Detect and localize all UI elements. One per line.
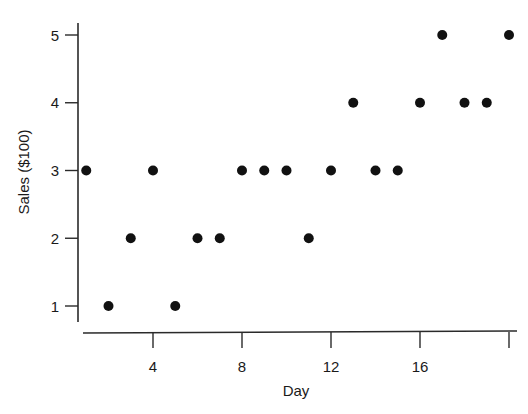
y-tick-label: 2 [51, 230, 59, 247]
data-point [259, 166, 269, 176]
y-tick-label: 4 [51, 94, 59, 111]
y-tick-label: 1 [51, 298, 59, 315]
x-tick-label: 12 [323, 358, 340, 375]
data-point [393, 166, 403, 176]
data-point [371, 166, 381, 176]
x-axis-title: Day [283, 382, 310, 399]
data-point [282, 166, 292, 176]
data-point [460, 98, 470, 108]
y-axis-title: Sales ($100) [15, 129, 32, 214]
y-tick-label: 5 [51, 27, 59, 44]
x-tick-label: 4 [149, 358, 157, 375]
data-point [482, 98, 492, 108]
data-point [326, 166, 336, 176]
x-tick-label: 8 [238, 358, 246, 375]
y-tick-label: 3 [51, 162, 59, 179]
data-point [437, 30, 447, 40]
data-point [193, 233, 203, 243]
data-point [504, 30, 514, 40]
x-axis: 481216 [83, 331, 517, 375]
x-axis-line [83, 331, 517, 333]
data-point [81, 166, 91, 176]
scatter-chart: 12345 481216 Day Sales ($100) [0, 0, 528, 414]
y-axis: 12345 [51, 23, 78, 322]
data-point [415, 98, 425, 108]
data-point [170, 301, 180, 311]
data-point [104, 301, 114, 311]
data-point [148, 166, 158, 176]
data-point [237, 166, 247, 176]
data-point [348, 98, 358, 108]
data-point [215, 233, 225, 243]
x-tick-label: 16 [412, 358, 429, 375]
data-point [304, 233, 314, 243]
data-points [81, 30, 514, 311]
data-point [126, 233, 136, 243]
